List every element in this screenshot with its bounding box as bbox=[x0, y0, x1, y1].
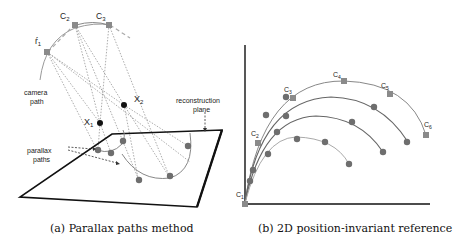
camera-arc bbox=[245, 81, 426, 203]
label-b-c6: C6 bbox=[424, 121, 432, 130]
camera-c6-marker bbox=[423, 132, 429, 138]
parallax-points bbox=[95, 138, 191, 183]
camera-c2-marker bbox=[255, 140, 261, 146]
label-b-c5: C5 bbox=[381, 82, 389, 91]
label-c1: ŕ1 bbox=[35, 36, 42, 47]
panel-a: ŕ1 C2 C3 X1 X2 camera path reconstructio… bbox=[20, 11, 222, 207]
camera-c3-marker bbox=[290, 95, 296, 101]
camera-markers-a bbox=[44, 22, 112, 55]
camera-c5-marker bbox=[387, 91, 393, 97]
label-camera-path-2: path bbox=[30, 98, 44, 106]
camera-c1-marker bbox=[242, 201, 248, 207]
parallax-path-2 bbox=[122, 133, 191, 179]
label-camera-path-1: camera bbox=[24, 89, 47, 96]
path-point bbox=[185, 143, 191, 149]
plane-thick-edge bbox=[197, 130, 222, 207]
camera-c2-marker bbox=[72, 22, 78, 28]
point-x1 bbox=[97, 120, 103, 126]
camera-c4-marker bbox=[341, 78, 347, 84]
caption-a: (a) Parallax paths method bbox=[50, 222, 194, 235]
camera-c1-marker bbox=[44, 49, 50, 55]
sight-lines bbox=[47, 25, 190, 178]
label-c2: C2 bbox=[60, 11, 70, 22]
label-b-c1: C1 bbox=[236, 191, 244, 200]
arc-3 bbox=[245, 116, 383, 203]
label-b-c3: C3 bbox=[284, 86, 292, 95]
path-point bbox=[136, 177, 142, 183]
label-c3: C3 bbox=[96, 11, 106, 22]
label-parallax-2: paths bbox=[33, 156, 51, 164]
label-x1: X1 bbox=[84, 117, 94, 128]
label-parallax-1: parallax bbox=[27, 147, 52, 155]
label-reconstruction-2: plane bbox=[193, 106, 210, 114]
camera-path-dashed-right bbox=[110, 25, 130, 38]
figure-canvas: ŕ1 C2 C3 X1 X2 camera path reconstructio… bbox=[0, 0, 455, 247]
camera-path-dashed-left bbox=[48, 27, 72, 52]
label-x2: X2 bbox=[134, 94, 144, 105]
path-point bbox=[108, 150, 114, 156]
path-point bbox=[120, 138, 126, 144]
caption-b: (b) 2D position-invariant reference bbox=[258, 222, 452, 235]
label-b-c2: C2 bbox=[251, 130, 259, 139]
point-x2 bbox=[121, 102, 127, 108]
arrow-head-icon bbox=[116, 161, 120, 165]
camera-c3-marker bbox=[106, 22, 112, 28]
path-point bbox=[95, 147, 101, 153]
label-reconstruction-1: reconstruction bbox=[176, 97, 220, 104]
panel-b: C1 C2 C3 C4 C5 C6 bbox=[236, 45, 432, 207]
path-point bbox=[167, 173, 173, 179]
label-b-c4: C4 bbox=[333, 71, 341, 80]
